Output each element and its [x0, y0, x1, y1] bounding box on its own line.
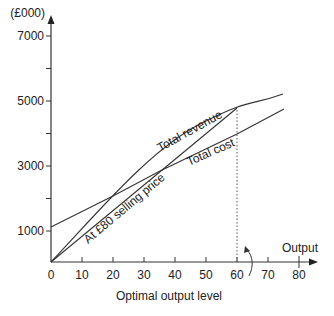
- optimal-output-label: Optimal output level: [116, 289, 222, 303]
- x-tick-60: 60: [230, 268, 244, 282]
- x-tick-50: 50: [199, 268, 213, 282]
- price-80-label: At £80 selling price: [81, 170, 168, 246]
- break-even-chart: (£000) 7000 5000 3000 1000 0 10 20 30 40…: [0, 0, 334, 316]
- x-tick-10: 10: [75, 268, 89, 282]
- optimal-output-arrow: [247, 250, 252, 276]
- x-tick-0: 0: [48, 268, 55, 282]
- total-cost-line: [51, 109, 284, 227]
- x-tick-80: 80: [292, 268, 306, 282]
- y-tick-5000: 5000: [17, 94, 44, 108]
- y-ticks: [46, 36, 51, 231]
- y-tick-3000: 3000: [17, 159, 44, 173]
- x-tick-30: 30: [137, 268, 151, 282]
- total-cost-label: Total cost: [185, 135, 238, 169]
- x-axis-arrow-icon: [309, 259, 318, 266]
- y-tick-1000: 1000: [17, 224, 44, 238]
- x-tick-70: 70: [261, 268, 275, 282]
- y-axis-arrow-icon: [48, 15, 55, 24]
- x-axis-label: Output: [282, 241, 319, 255]
- x-tick-20: 20: [106, 268, 120, 282]
- y-unit-label: (£000): [10, 6, 45, 20]
- y-tick-7000: 7000: [17, 29, 44, 43]
- x-tick-40: 40: [168, 268, 182, 282]
